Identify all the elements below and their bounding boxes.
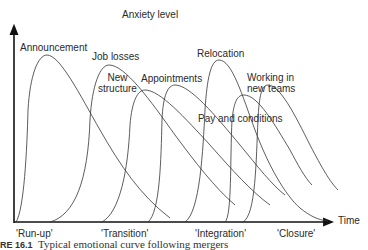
label-pay-and-conditions: Pay and conditions bbox=[198, 113, 283, 124]
curve-working-in-new-teams bbox=[243, 85, 338, 222]
figure-caption: RE 16.1 Typical emotional curve followin… bbox=[0, 238, 228, 250]
x-axis-label: Time bbox=[338, 215, 360, 226]
label-new-structure: New structure bbox=[98, 72, 137, 94]
figure-caption-text: Typical emotional curve following merger… bbox=[38, 238, 228, 250]
label-relocation: Relocation bbox=[197, 48, 244, 59]
curve-new-structure bbox=[102, 90, 270, 222]
label-appointments: Appointments bbox=[141, 73, 202, 84]
y-axis-label: Anxiety level bbox=[122, 9, 178, 20]
label-announcement: Announcement bbox=[20, 42, 87, 53]
label-working-in-new-teams: Working in new teams bbox=[247, 72, 295, 94]
label-job-losses: Job losses bbox=[92, 51, 139, 62]
phase-closure: 'Closure' bbox=[277, 228, 315, 239]
figure-number: RE 16.1 bbox=[0, 240, 33, 250]
